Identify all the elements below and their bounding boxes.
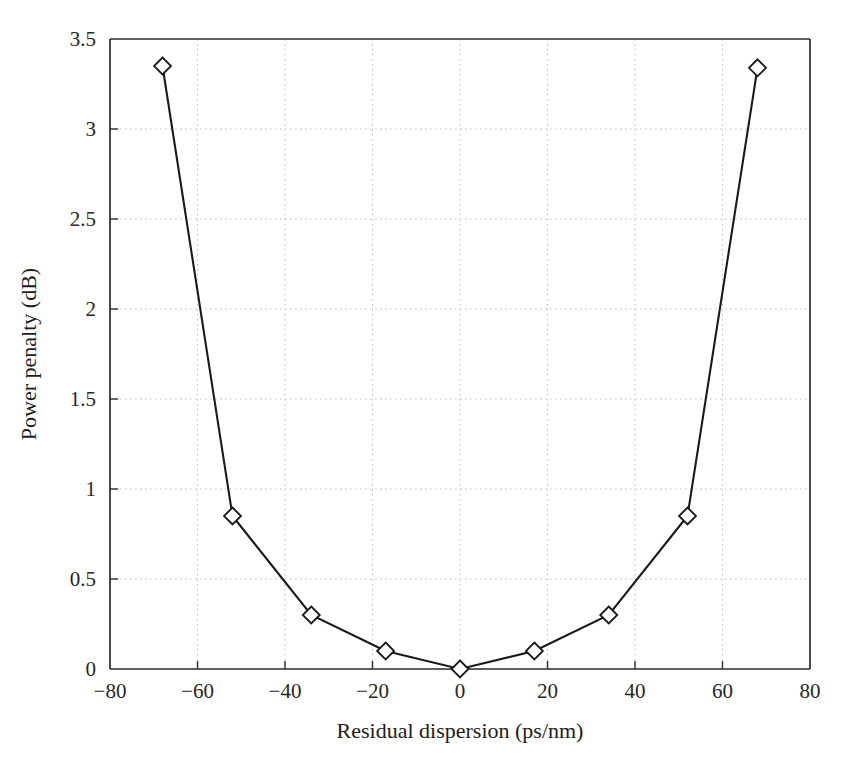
x-tick-label-0: 0 <box>455 679 466 703</box>
y-tick-label-1.5: 1.5 <box>70 387 96 411</box>
x-tick-label--20: −20 <box>356 679 389 703</box>
x-tick-label--80: −80 <box>94 679 127 703</box>
y-tick-label-3.5: 3.5 <box>70 27 96 51</box>
y-tick-label-2: 2 <box>86 297 97 321</box>
x-tick-label-80: 80 <box>800 679 821 703</box>
y-tick-label-0.5: 0.5 <box>70 567 96 591</box>
x-tick-label-60: 60 <box>712 679 733 703</box>
y-tick-label-3: 3 <box>86 117 97 141</box>
x-tick-label--60: −60 <box>181 679 214 703</box>
x-axis-title: Residual dispersion (ps/nm) <box>337 718 584 743</box>
x-tick-label--40: −40 <box>269 679 302 703</box>
x-tick-labels: −80−60−40−20020406080 <box>94 679 821 703</box>
y-tick-label-2.5: 2.5 <box>70 207 96 231</box>
x-tick-label-20: 20 <box>537 679 558 703</box>
y-axis-title: Power penalty (dB) <box>16 268 41 440</box>
y-tick-label-0: 0 <box>86 657 97 681</box>
y-tick-label-1: 1 <box>86 477 97 501</box>
y-tick-labels: 00.511.522.533.5 <box>70 27 96 681</box>
power-penalty-line-chart: −80−60−40−20020406080 00.511.522.533.5 R… <box>0 0 858 773</box>
figure-container: −80−60−40−20020406080 00.511.522.533.5 R… <box>0 0 858 773</box>
x-tick-label-40: 40 <box>625 679 646 703</box>
